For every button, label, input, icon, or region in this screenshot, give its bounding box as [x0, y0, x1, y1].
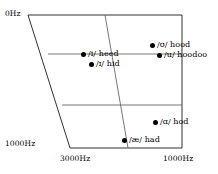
- vowel-label-had: /æ/ had: [129, 135, 160, 144]
- vowel-label-hid: /ɪ/ hid: [96, 59, 120, 68]
- vowel-quadrilateral-outline: [28, 15, 182, 148]
- axis-label-x-left: 3000Hz: [60, 154, 90, 163]
- vowel-label-hoodoo: /u/ hoodoo: [164, 50, 207, 59]
- vowel-label-hood: /ʊ/ hood: [157, 40, 190, 49]
- vowel-dot-hid: [89, 62, 94, 67]
- vowel-label-heed: /i/ heed: [88, 49, 119, 58]
- vowel-dot-heed: [81, 52, 86, 57]
- center-diagonal-line: [105, 15, 128, 148]
- vowel-dot-hood: [150, 43, 155, 48]
- axis-label-x-right: 1000Hz: [163, 154, 193, 163]
- vowel-formant-chart: 0Hz 1000Hz 3000Hz 1000Hz /i/ heed /ɪ/ hi…: [0, 0, 218, 174]
- vowel-dot-hoodoo: [157, 53, 162, 58]
- vowel-dot-had: [122, 138, 127, 143]
- axis-label-y-bottom: 1000Hz: [5, 139, 35, 148]
- vowel-label-hod: /ɑ/ hod: [160, 117, 189, 126]
- vowel-dot-hod: [153, 120, 158, 125]
- axis-label-y-top: 0Hz: [5, 9, 21, 18]
